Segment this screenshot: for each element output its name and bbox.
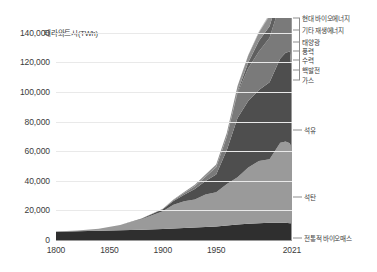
leader-line [293,197,302,198]
gridline [56,210,292,211]
label-bracket [299,18,300,80]
gridline [56,122,292,123]
x-tick-label: 1950 [207,245,226,255]
y-tick-label: 120,000 [0,57,50,67]
series-label: 현대 바이오에너지 [302,13,350,23]
x-tick-label: 2021 [283,245,302,255]
gridline [56,92,292,93]
x-axis-line [56,240,292,241]
series-label: 핵발전 [302,65,319,75]
series-label: 전통적 바이오매스 [304,233,352,243]
y-tick-label: 100,000 [0,87,50,97]
y-tick-label: 40,000 [0,176,50,186]
energy-consumption-area-chart: 테라와트시(TWh) 020,00040,00060,00080,000100,… [0,0,377,272]
right-axis-line [291,18,292,241]
gridline [56,151,292,152]
series-label: 가스 [302,75,314,85]
stacked-area-series [56,18,292,240]
y-tick-label: 140,000 [0,28,50,38]
gridline [56,181,292,182]
series-label: 석탄 [304,192,316,202]
x-tick-label: 1800 [47,245,66,255]
leader-line [293,130,302,131]
series-label: 수력 [302,55,314,65]
series-label: 기타 재생에너지 [302,25,344,35]
gridline [56,33,292,34]
leader-line [293,238,302,239]
y-tick-label: 80,000 [0,117,50,127]
x-tick-label: 1850 [100,245,119,255]
y-tick-label: 0 [0,235,50,245]
y-tick-label: 20,000 [0,205,50,215]
y-axis-ticks: 020,00040,00060,00080,000100,000120,0001… [0,0,50,272]
series-label: 석유 [304,125,316,135]
x-tick-label: 1900 [154,245,173,255]
y-tick-label: 60,000 [0,146,50,156]
gridline [56,62,292,63]
